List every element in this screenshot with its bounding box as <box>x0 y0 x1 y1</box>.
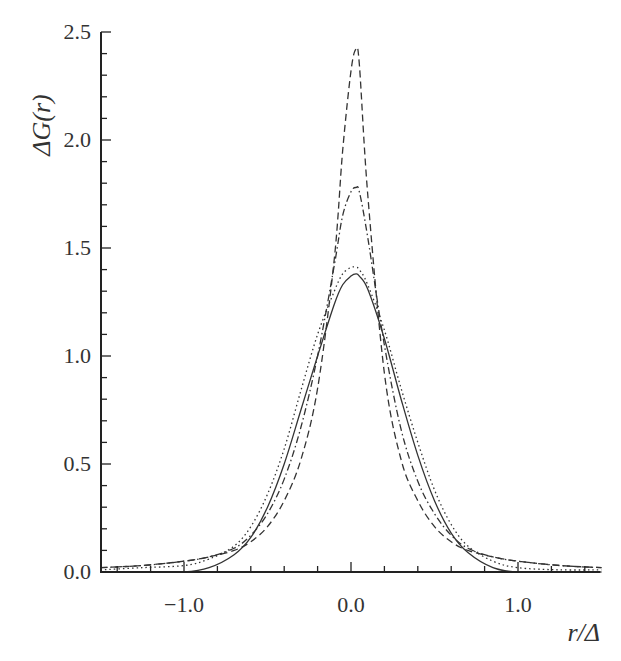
y-axis-title: ΔG(r) <box>27 94 56 156</box>
series-dashed-curve <box>101 47 602 568</box>
plot-curves <box>101 47 602 572</box>
y-tick-label: 2.0 <box>64 127 92 152</box>
x-tick-label: 0.0 <box>337 592 365 617</box>
series-solid-curve <box>101 274 602 572</box>
y-tick-label: 1.5 <box>64 235 92 260</box>
y-tick-label: 0.5 <box>64 451 92 476</box>
chart: 0.00.51.01.52.02.5−1.00.01.0 ΔG(r) r/Δ <box>0 0 621 661</box>
y-tick-label: 1.0 <box>64 343 92 368</box>
series-dash-dot-curve <box>101 187 602 568</box>
tick-labels: 0.00.51.01.52.02.5−1.00.01.0 <box>64 19 532 617</box>
y-tick-label: 0.0 <box>64 559 92 584</box>
x-tick-label: −1.0 <box>164 592 204 617</box>
x-axis-title: r/Δ <box>567 618 600 647</box>
series-dotted-curve <box>101 267 602 570</box>
y-tick-label: 2.5 <box>64 19 92 44</box>
x-tick-label: 1.0 <box>504 592 532 617</box>
axes <box>101 32 600 573</box>
